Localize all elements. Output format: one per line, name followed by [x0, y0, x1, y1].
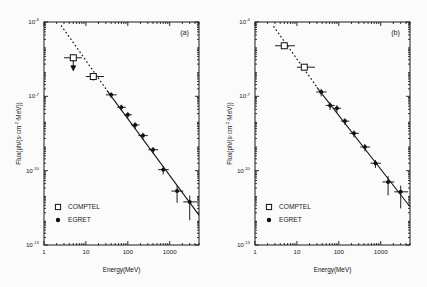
- data-point-egret: [316, 89, 326, 96]
- panel-label: (b): [391, 28, 400, 37]
- legend-label-comptel: COMPTEL: [68, 203, 100, 210]
- comptel-marker: [90, 74, 96, 80]
- data-point-egret: [106, 92, 117, 98]
- x-tick-label: 1000: [374, 248, 388, 255]
- data-point-comptel: [275, 43, 295, 49]
- x-tick-label: 1000: [163, 248, 177, 255]
- egret-marker: [161, 168, 165, 172]
- data-point-egret: [124, 112, 132, 118]
- figure-root: 110100100010-410-710-1010-13(a)COMPTELEG…: [0, 0, 427, 287]
- panel-b: 110100100010-410-710-1010-13(b)COMPTELEG…: [225, 17, 410, 274]
- panel-a: 110100100010-410-710-1010-13(a)COMPTELEG…: [14, 17, 199, 274]
- legend-egret-icon: [56, 218, 60, 222]
- legend-comptel-icon: [55, 204, 60, 209]
- legend-label-comptel: COMPTEL: [279, 203, 311, 210]
- x-tick-label: 100: [334, 248, 345, 255]
- y-tick-label: 10-4: [28, 17, 39, 25]
- data-point-egret: [382, 176, 394, 195]
- x-tick-label: 100: [123, 248, 134, 255]
- y-axis-title: Flux(ph/(s·cm-2·MeV)): [225, 102, 234, 165]
- comptel-marker: [301, 64, 307, 70]
- egret-marker: [343, 119, 347, 123]
- y-tick-label: 10-10: [26, 166, 40, 174]
- egret-marker: [335, 106, 339, 110]
- y-tick-label: 10-10: [237, 166, 251, 174]
- extrapolation-dotted-line: [274, 27, 318, 88]
- egret-marker: [386, 180, 390, 184]
- egret-marker: [328, 103, 332, 107]
- data-point-egret: [158, 166, 169, 174]
- legend-label-egret: EGRET: [279, 216, 302, 223]
- y-tick-label: 10-7: [239, 92, 250, 100]
- data-point-comptel: [86, 74, 104, 81]
- x-tick-label: 10: [82, 248, 89, 255]
- egret-marker: [109, 93, 113, 97]
- legend-egret-icon: [267, 218, 271, 222]
- extrapolation-dotted-line: [61, 26, 107, 91]
- plot-frame: [255, 22, 410, 245]
- egret-marker: [363, 145, 367, 149]
- x-tick-label: 10: [293, 248, 300, 255]
- y-tick-label: 10-13: [26, 240, 40, 248]
- egret-marker: [373, 161, 377, 165]
- egret-marker: [133, 123, 137, 127]
- y-tick-label: 10-7: [28, 92, 39, 100]
- data-point-egret: [171, 186, 183, 203]
- egret-marker: [188, 200, 192, 204]
- panel-label: (a): [180, 28, 189, 37]
- plot-frame: [44, 22, 199, 245]
- y-tick-label: 10-13: [237, 240, 251, 248]
- egret-marker: [175, 189, 179, 193]
- egret-marker: [399, 190, 403, 194]
- egret-marker: [141, 134, 145, 138]
- data-point-comptel: [64, 55, 82, 71]
- egret-marker: [119, 105, 123, 109]
- egret-marker: [151, 148, 155, 152]
- y-axis-title: Flux(ph/(s·cm-2·MeV)): [14, 102, 23, 165]
- comptel-marker: [281, 43, 287, 49]
- y-tick-label: 10-4: [239, 17, 250, 25]
- legend-label-egret: EGRET: [68, 216, 91, 223]
- data-point-comptel: [297, 64, 315, 70]
- upper-limit-arrow: [71, 66, 76, 71]
- egret-marker: [319, 90, 323, 94]
- egret-marker: [352, 131, 356, 135]
- legend-comptel-icon: [266, 204, 271, 209]
- data-point-egret: [183, 195, 197, 220]
- x-axis-title: Energy(MeV): [314, 266, 352, 274]
- egret-marker: [126, 113, 130, 117]
- x-tick-label: 1: [42, 248, 46, 255]
- comptel-marker: [70, 55, 76, 61]
- data-point-egret: [131, 122, 139, 128]
- spectral-energy-distribution-figure: 110100100010-410-710-1010-13(a)COMPTELEG…: [0, 0, 427, 287]
- x-tick-label: 1: [253, 248, 257, 255]
- x-axis-title: Energy(MeV): [103, 266, 141, 274]
- data-point-egret: [139, 133, 148, 140]
